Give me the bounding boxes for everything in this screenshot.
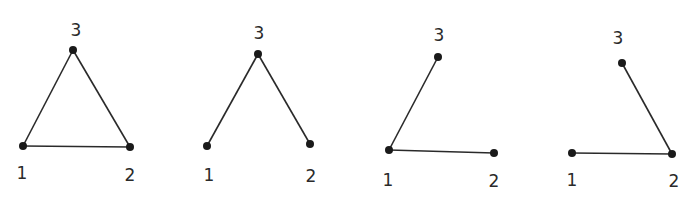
graph-3: 123 <box>383 25 500 191</box>
vertex-label-2: 2 <box>306 166 317 186</box>
vertex-label-1: 1 <box>567 170 578 190</box>
vertex-2 <box>668 150 676 158</box>
graph-figure: 123123123123 <box>0 0 692 208</box>
vertex-1 <box>19 142 27 150</box>
graph-1: 123 <box>17 20 136 185</box>
vertex-3 <box>434 53 442 61</box>
edge-1-3 <box>389 57 438 150</box>
vertex-3 <box>69 46 77 54</box>
vertex-label-3: 3 <box>71 20 82 40</box>
edge-1-2 <box>572 153 672 154</box>
vertex-label-3: 3 <box>254 23 265 43</box>
vertex-label-2: 2 <box>489 171 500 191</box>
vertex-2 <box>306 140 314 148</box>
edge-1-3 <box>23 50 73 146</box>
edge-1-2 <box>23 146 130 147</box>
vertex-2 <box>126 143 134 151</box>
edge-2-3 <box>622 63 672 154</box>
vertex-3 <box>618 59 626 67</box>
vertex-1 <box>385 146 393 154</box>
vertex-1 <box>568 149 576 157</box>
edge-1-2 <box>389 150 494 153</box>
vertex-label-2: 2 <box>125 165 136 185</box>
vertex-2 <box>490 149 498 157</box>
graph-4: 123 <box>567 28 680 191</box>
edge-2-3 <box>73 50 130 147</box>
vertex-label-2: 2 <box>669 171 680 191</box>
vertex-label-1: 1 <box>383 170 394 190</box>
vertex-1 <box>203 142 211 150</box>
vertex-label-1: 1 <box>204 165 215 185</box>
edge-2-3 <box>258 54 310 144</box>
vertex-label-3: 3 <box>613 28 624 48</box>
vertex-label-1: 1 <box>17 163 28 183</box>
vertex-label-3: 3 <box>434 25 445 45</box>
graph-2: 123 <box>203 23 316 186</box>
edge-1-3 <box>207 54 258 146</box>
vertex-3 <box>254 50 262 58</box>
